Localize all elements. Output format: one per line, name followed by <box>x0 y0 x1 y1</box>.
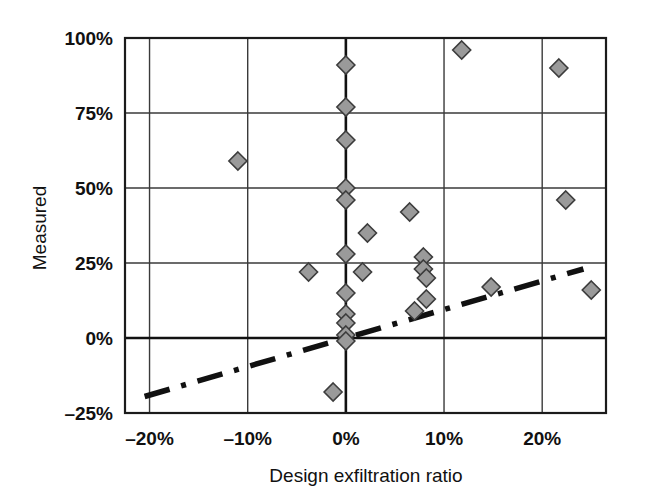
y-tick-label: 50% <box>75 178 113 199</box>
x-tick-label: –10% <box>223 428 272 449</box>
x-tick-label: 0% <box>332 428 360 449</box>
x-tick-label: 10% <box>425 428 463 449</box>
y-tick-label: 75% <box>75 103 113 124</box>
x-tick-label: 20% <box>523 428 561 449</box>
y-tick-label: 0% <box>86 328 114 349</box>
chart-background <box>0 0 646 500</box>
y-tick-label: 100% <box>64 28 113 49</box>
y-tick-label: 25% <box>75 253 113 274</box>
scatter-chart: –20%–10%0%10%20% –25%0%25%50%75%100% Mea… <box>0 0 646 500</box>
y-axis-title: Measured <box>29 186 50 271</box>
x-tick-label: –20% <box>125 428 174 449</box>
chart-canvas: –20%–10%0%10%20% –25%0%25%50%75%100% Mea… <box>0 0 646 500</box>
y-tick-label: –25% <box>64 403 113 424</box>
x-axis-title: Design exfiltration ratio <box>269 465 462 486</box>
